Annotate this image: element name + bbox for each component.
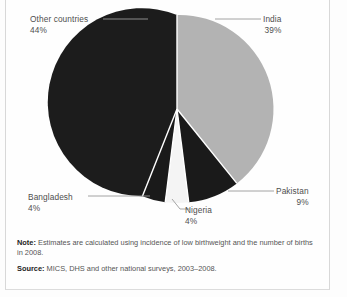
callout-other-countries: Other countries 44%	[30, 14, 88, 35]
note-label: Note:	[17, 238, 36, 247]
callout-nigeria: Nigeria 4%	[185, 205, 212, 226]
callout-bangladesh: Bangladesh 4%	[28, 192, 73, 213]
callout-india-value: 39%	[263, 25, 282, 36]
callout-nigeria-value: 4%	[185, 216, 212, 227]
callout-bangladesh-name: Bangladesh	[28, 192, 73, 202]
source-text: MICS, DHS and other national surveys, 20…	[47, 264, 217, 273]
source-row: Source: MICS, DHS and other national sur…	[17, 264, 317, 274]
figure-panel: Other countries 44% India 39% Pakistan 9…	[0, 0, 347, 297]
source-label: Source:	[17, 264, 45, 273]
callout-pakistan-value: 9%	[276, 197, 309, 208]
callout-bangladesh-value: 4%	[28, 203, 73, 214]
callout-pakistan-name: Pakistan	[276, 186, 309, 196]
pie-chart-area: Other countries 44% India 39% Pakistan 9…	[0, 0, 347, 232]
callout-pakistan: Pakistan 9%	[276, 186, 309, 207]
callout-other-countries-value: 44%	[30, 25, 88, 36]
note-text: Estimates are calculated using incidence…	[17, 238, 313, 257]
note-row: Note: Estimates are calculated using inc…	[17, 238, 317, 258]
figure-footnotes: Note: Estimates are calculated using inc…	[17, 238, 317, 275]
callout-nigeria-name: Nigeria	[185, 205, 212, 215]
callout-india-name: India	[263, 14, 282, 24]
callout-other-countries-name: Other countries	[30, 14, 88, 24]
callout-india: India 39%	[263, 14, 282, 35]
